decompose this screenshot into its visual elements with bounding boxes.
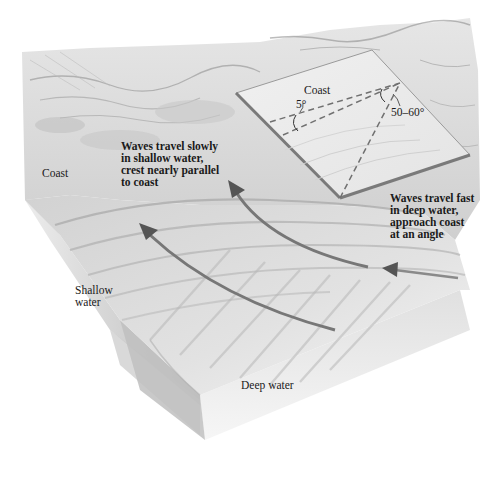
- shallow-water-label: Shallow water: [75, 284, 113, 308]
- slow-waves-annotation: Waves travel slowly in shallow water, cr…: [121, 140, 219, 188]
- wave-refraction-diagram: Coast 5° 50–60° Waves travel slowly in s…: [0, 0, 498, 482]
- diagram-illustration: [0, 0, 498, 482]
- angle-50-60-degree-label: 50–60°: [391, 106, 424, 118]
- coast-label: Coast: [42, 167, 68, 179]
- angle-5-degree-label: 5°: [296, 98, 306, 110]
- fast-waves-annotation: Waves travel fast in deep water, approac…: [390, 192, 474, 240]
- inset-coast-label: Coast: [304, 84, 330, 96]
- deep-water-label: Deep water: [241, 379, 294, 391]
